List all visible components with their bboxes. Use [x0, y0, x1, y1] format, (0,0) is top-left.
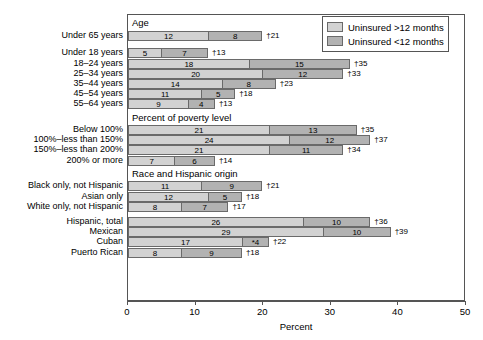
bar-segment-gt12: 5: [128, 48, 162, 58]
x-tick-label: 0: [124, 306, 129, 317]
bar-total-label: †36: [374, 217, 387, 227]
bar-row: 2113†35: [128, 125, 466, 135]
bar-total-label: †21: [266, 181, 279, 191]
legend-item-lt12: Uninsured <12 months: [327, 34, 444, 48]
x-axis-title: Percent: [127, 321, 465, 332]
bar-row: 2111†34: [128, 145, 466, 155]
bar-segment-lt12: 10: [303, 217, 371, 227]
legend-item-gt12: Uninsured >12 months: [327, 20, 444, 34]
x-tick-mark: [127, 301, 128, 305]
bar-row: 89†18: [128, 248, 466, 258]
bar-total-label: †23: [280, 79, 293, 89]
bar-row: 125†18: [128, 192, 466, 202]
bar-total-label: †39: [395, 227, 408, 237]
x-tick-label: 20: [257, 306, 268, 317]
bar-total-label: †18: [246, 192, 259, 202]
y-axis-label: Puerto Rican: [0, 247, 123, 257]
y-axis-label: White only, not Hispanic: [0, 201, 123, 211]
x-tick-mark: [397, 301, 398, 305]
bar-total-label: †17: [232, 202, 245, 212]
bar-segment-lt12: 9: [201, 181, 262, 191]
y-axis-label: Under 65 years: [0, 30, 123, 40]
y-axis-label: 150%–less than 200%: [0, 144, 123, 154]
bar-segment-gt12: 12: [128, 192, 209, 202]
bar-total-label: †37: [374, 135, 387, 145]
bar-segment-lt12: 15: [249, 59, 350, 69]
bar-segment-lt12: 8: [222, 79, 276, 89]
y-axis-label: 35–44 years: [0, 78, 123, 88]
x-tick-mark: [330, 301, 331, 305]
y-axis-label: Below 100%: [0, 124, 123, 134]
bar-segment-lt12: 11: [269, 145, 343, 155]
y-axis-label: Asian only: [0, 191, 123, 201]
legend: Uninsured >12 months Uninsured <12 month…: [322, 16, 449, 52]
bar-total-label: †21: [266, 31, 279, 41]
bar-total-label: †35: [361, 125, 374, 135]
y-axis-label: 45–54 years: [0, 88, 123, 98]
x-axis-line: [127, 301, 465, 302]
bar-segment-gt12: 11: [128, 181, 202, 191]
section-header-1: Percent of poverty level: [132, 112, 231, 123]
y-axis-label: Hispanic, total: [0, 216, 123, 226]
x-tick-mark: [195, 301, 196, 305]
bar-segment-lt12: 12: [289, 135, 370, 145]
bar-total-label: †13: [212, 48, 225, 58]
bar-segment-lt12: 8: [208, 31, 262, 41]
bar-segment-lt12: 12: [262, 69, 343, 79]
bar-segment-gt12: 29: [128, 227, 324, 237]
bar-row: 1815†35: [128, 59, 466, 69]
bar-segment-gt12: 26: [128, 217, 304, 227]
bar-segment-gt12: 11: [128, 89, 202, 99]
x-tick-label: 50: [460, 306, 471, 317]
bar-segment-lt12: 6: [174, 156, 215, 166]
bar-segment-gt12: 20: [128, 69, 263, 79]
bar-total-label: †22: [273, 237, 286, 247]
bar-total-label: †33: [347, 69, 360, 79]
bar-segment-lt12: 7: [161, 48, 208, 58]
y-axis-label: 55–64 years: [0, 98, 123, 108]
bar-segment-lt12: 10: [323, 227, 391, 237]
x-tick-label: 10: [189, 306, 200, 317]
bar-row: 2610†36: [128, 217, 466, 227]
bar-total-label: †18: [239, 89, 252, 99]
bar-segment-lt12: 4: [188, 99, 215, 109]
bar-row: 17*4†22: [128, 237, 466, 247]
y-axis-label: 18–24 years: [0, 58, 123, 68]
bar-segment-gt12: 7: [128, 156, 175, 166]
bar-segment-gt12: 17: [128, 237, 243, 247]
section-header-0: Age: [132, 17, 149, 28]
bar-total-label: †18: [246, 248, 259, 258]
bar-row: 148†23: [128, 79, 466, 89]
bar-row: 115†18: [128, 89, 466, 99]
bar-segment-lt12: 13: [269, 125, 357, 135]
bar-row: 2412†37: [128, 135, 466, 145]
plot-area: Age128†2157†131815†352012†33148†23115†18…: [127, 14, 465, 301]
bar-total-label: †34: [347, 145, 360, 155]
x-tick-mark: [465, 301, 466, 305]
legend-label-gt12: Uninsured >12 months: [348, 22, 444, 33]
section-header-2: Race and Hispanic origin: [132, 168, 238, 179]
bar-total-label: †14: [219, 156, 232, 166]
bar-row: 2012†33: [128, 69, 466, 79]
bar-row: 94†13: [128, 99, 466, 109]
bar-segment-gt12: 9: [128, 99, 189, 109]
bar-segment-gt12: 14: [128, 79, 223, 89]
y-axis-label: 100%–less than 150%: [0, 134, 123, 144]
x-tick-mark: [262, 301, 263, 305]
bar-segment-gt12: 18: [128, 59, 250, 69]
bar-segment-lt12: 9: [181, 248, 242, 258]
bar-segment-gt12: 24: [128, 135, 290, 145]
bar-segment-lt12: 5: [208, 192, 242, 202]
legend-swatch-icon-lt12: [327, 36, 343, 46]
bar-total-label: †35: [354, 59, 367, 69]
stacked-bar-chart: Under 65 yearsUnder 18 years18–24 years2…: [0, 0, 483, 340]
legend-label-lt12: Uninsured <12 months: [348, 36, 444, 47]
bar-segment-gt12: 8: [128, 248, 182, 258]
bar-segment-gt12: 21: [128, 125, 270, 135]
x-tick-label: 30: [325, 306, 336, 317]
y-axis-label: 25–34 years: [0, 68, 123, 78]
y-axis-label: Black only, not Hispanic: [0, 180, 123, 190]
legend-swatch-icon-gt12: [327, 22, 343, 32]
bar-row: 2910†39: [128, 227, 466, 237]
bar-segment-gt12: 8: [128, 202, 182, 212]
